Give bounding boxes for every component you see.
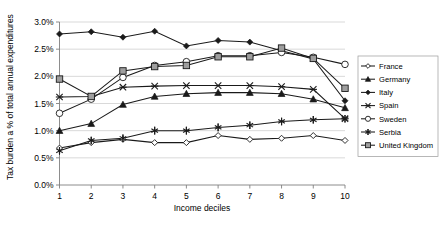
marker-gray-square <box>310 55 316 61</box>
x-tick-label: 10 <box>340 191 350 201</box>
legend: FranceGermanyItalySpainSwedenSerbiaUnite… <box>358 56 438 156</box>
marker-open-diamond <box>152 140 158 146</box>
marker-open-diamond <box>215 133 221 139</box>
series-layer <box>56 28 349 154</box>
y-axis-title: Tax burden a % of total annual expenditu… <box>5 14 15 180</box>
x-axis-title: Income deciles <box>174 203 231 213</box>
marker-open-diamond <box>183 140 189 146</box>
marker-open-diamond <box>247 136 253 142</box>
marker-gray-square <box>151 63 157 69</box>
legend-label: Serbia <box>379 128 402 137</box>
marker-open-diamond <box>279 135 285 141</box>
marker-open-circle <box>56 110 63 117</box>
series-france <box>60 136 346 148</box>
legend-label: Italy <box>379 88 393 97</box>
x-tick-label: 7 <box>247 191 252 201</box>
markers-sweden <box>56 49 348 116</box>
y-tick-label: 1.5% <box>34 99 54 109</box>
marker-filled-diamond <box>152 28 158 34</box>
series-line <box>60 86 346 119</box>
marker-cross-x <box>310 86 317 92</box>
marker-cross-x <box>151 83 158 89</box>
marker-filled-diamond <box>57 31 63 37</box>
legend-label: United Kingdom <box>379 141 433 150</box>
marker-gray-square <box>56 76 62 82</box>
series-italy <box>60 31 346 101</box>
y-tick-label: 1.0% <box>34 126 54 136</box>
x-tick-label: 1 <box>57 191 62 201</box>
x-tick-label: 5 <box>184 191 189 201</box>
marker-gray-square <box>278 45 284 51</box>
x-tick-label: 3 <box>121 191 126 201</box>
x-tick-label: 2 <box>89 191 94 201</box>
y-tick-label: 2.0% <box>34 71 54 81</box>
x-tick-label: 4 <box>152 191 157 201</box>
series-line <box>60 136 346 148</box>
marker-cross-x <box>246 82 253 88</box>
markers-serbia <box>56 115 348 155</box>
x-tick-label: 6 <box>216 191 221 201</box>
line-chart: Tax burden a % of total annual expenditu… <box>0 0 440 229</box>
markers-united-kingdom <box>56 45 348 100</box>
marker-gray-square <box>88 93 94 99</box>
marker-filled-diamond <box>88 29 94 35</box>
legend-label: Sweden <box>379 115 406 124</box>
series-line <box>60 31 346 101</box>
marker-filled-diamond <box>183 43 189 49</box>
marker-open-circle <box>120 74 127 81</box>
y-tick-label: 0.0% <box>34 180 54 190</box>
y-tick-label: 2.5% <box>34 44 54 54</box>
marker-cross-x <box>278 83 285 89</box>
legend-label: Germany <box>379 75 410 84</box>
series-line <box>60 48 346 96</box>
marker-open-circle <box>342 61 349 68</box>
marker-open-diamond <box>342 137 348 143</box>
marker-gray-square <box>366 143 371 148</box>
marker-filled-diamond <box>215 37 221 43</box>
marker-open-circle <box>365 116 370 121</box>
y-tick-label: 3.0% <box>34 17 54 27</box>
marker-filled-diamond <box>247 39 253 45</box>
marker-open-diamond <box>310 133 316 139</box>
legend-label: France <box>379 62 403 71</box>
x-axis-ticks: 12345678910 <box>57 185 350 201</box>
gridlines <box>60 22 346 158</box>
chart-container: Tax burden a % of total annual expenditu… <box>0 0 440 229</box>
series-line <box>60 93 346 131</box>
marker-cross-x <box>119 84 126 90</box>
x-tick-label: 8 <box>279 191 284 201</box>
marker-gray-square <box>247 54 253 60</box>
series-spain <box>60 86 346 119</box>
y-tick-label: 0.5% <box>34 153 54 163</box>
marker-filled-triangle <box>88 120 95 126</box>
y-axis-ticks: 0.0%0.5%1.0%1.5%2.0%2.5%3.0% <box>34 17 59 190</box>
series-line <box>60 119 346 151</box>
legend-label: Spain <box>379 101 398 110</box>
x-tick-label: 9 <box>311 191 316 201</box>
marker-gray-square <box>120 68 126 74</box>
series-germany <box>60 93 346 131</box>
marker-cross-x <box>214 82 221 88</box>
marker-gray-square <box>215 54 221 60</box>
series-united-kingdom <box>60 48 346 96</box>
markers-germany <box>56 89 348 133</box>
marker-gray-square <box>183 62 189 68</box>
marker-filled-diamond <box>120 34 126 40</box>
marker-gray-square <box>342 85 348 91</box>
marker-cross-x <box>183 82 190 88</box>
series-serbia <box>60 119 346 151</box>
